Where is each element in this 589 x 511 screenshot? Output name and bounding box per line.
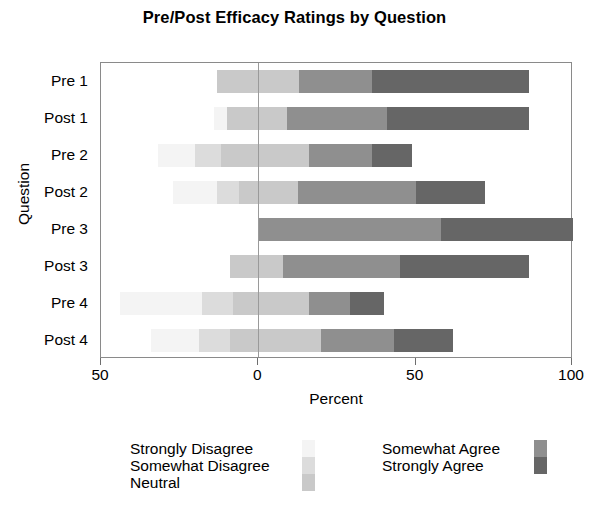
bar-segment-strongly-disagree[interactable] bbox=[120, 292, 202, 315]
legend-swatch-neutral bbox=[302, 474, 315, 491]
bar-segment-somewhat-agree[interactable] bbox=[287, 107, 388, 130]
x-tick-label: 0 bbox=[253, 366, 262, 384]
y-tick-label: Post 4 bbox=[44, 321, 88, 358]
bar-row bbox=[101, 285, 571, 322]
bar-row bbox=[101, 211, 571, 248]
bar-segment-somewhat-agree[interactable] bbox=[309, 144, 372, 167]
legend-swatch-strongly-agree bbox=[534, 457, 547, 474]
bar-segment-somewhat-agree[interactable] bbox=[283, 255, 399, 278]
legend-swatch-somewhat-agree bbox=[534, 440, 547, 457]
legend-column-left: Strongly DisagreeSomewhat DisagreeNeutra… bbox=[130, 440, 315, 491]
bar-row bbox=[101, 100, 571, 137]
likert-chart: Pre/Post Efficacy Ratings by Question Qu… bbox=[0, 0, 589, 511]
legend-column-right: Somewhat AgreeStrongly Agree bbox=[382, 440, 547, 474]
bar-segment-strongly-disagree[interactable] bbox=[151, 329, 198, 352]
bar-segment-neutral[interactable] bbox=[221, 144, 309, 167]
stacked-bar[interactable] bbox=[173, 181, 485, 204]
x-tick bbox=[257, 358, 258, 365]
bar-segment-strongly-disagree[interactable] bbox=[214, 107, 227, 130]
bar-segment-neutral[interactable] bbox=[233, 292, 309, 315]
bar-segment-strongly-agree[interactable] bbox=[400, 255, 529, 278]
zero-reference-line bbox=[258, 63, 259, 357]
bar-segment-strongly-disagree[interactable] bbox=[158, 144, 196, 167]
stacked-bar[interactable] bbox=[230, 255, 529, 278]
legend-item[interactable]: Strongly Agree bbox=[382, 457, 547, 474]
bar-rows bbox=[101, 63, 571, 357]
legend: Strongly DisagreeSomewhat DisagreeNeutra… bbox=[130, 440, 570, 502]
stacked-bar[interactable] bbox=[158, 144, 425, 167]
bar-segment-neutral[interactable] bbox=[230, 255, 283, 278]
bar-row bbox=[101, 322, 571, 359]
bar-row bbox=[101, 248, 571, 285]
bar-segment-strongly-agree[interactable] bbox=[350, 292, 385, 315]
y-tick-label: Pre 4 bbox=[51, 284, 88, 321]
bar-segment-strongly-agree[interactable] bbox=[441, 218, 573, 241]
legend-item[interactable]: Somewhat Disagree bbox=[130, 457, 315, 474]
chart-title: Pre/Post Efficacy Ratings by Question bbox=[0, 8, 589, 27]
bar-segment-somewhat-agree[interactable] bbox=[299, 70, 371, 93]
bar-segment-somewhat-disagree[interactable] bbox=[199, 329, 230, 352]
stacked-bar[interactable] bbox=[214, 107, 529, 130]
x-tick bbox=[100, 358, 101, 365]
legend-item[interactable]: Neutral bbox=[130, 474, 315, 491]
plot-panel bbox=[100, 62, 572, 358]
bar-segment-somewhat-disagree[interactable] bbox=[195, 144, 220, 167]
stacked-bar[interactable] bbox=[258, 218, 573, 241]
bar-segment-neutral[interactable] bbox=[239, 181, 298, 204]
x-tick-label: 50 bbox=[406, 366, 423, 384]
y-tick-label: Pre 3 bbox=[51, 210, 88, 247]
bar-segment-neutral[interactable] bbox=[227, 107, 287, 130]
bar-segment-somewhat-disagree[interactable] bbox=[202, 292, 233, 315]
bar-segment-strongly-agree[interactable] bbox=[372, 70, 529, 93]
legend-label: Somewhat Agree bbox=[382, 440, 534, 458]
y-tick-label: Post 1 bbox=[44, 99, 88, 136]
legend-swatch-strongly-disagree bbox=[302, 440, 315, 457]
legend-label: Somewhat Disagree bbox=[130, 457, 302, 475]
legend-item[interactable]: Strongly Disagree bbox=[130, 440, 315, 457]
bar-segment-strongly-disagree[interactable] bbox=[173, 181, 217, 204]
bar-segment-strongly-agree[interactable] bbox=[394, 329, 454, 352]
bar-segment-somewhat-disagree[interactable] bbox=[217, 181, 239, 204]
y-tick-label: Pre 2 bbox=[51, 136, 88, 173]
bar-segment-neutral[interactable] bbox=[230, 329, 321, 352]
y-tick-label: Pre 1 bbox=[51, 62, 88, 99]
bar-segment-strongly-agree[interactable] bbox=[416, 181, 485, 204]
bar-segment-somewhat-agree[interactable] bbox=[309, 292, 350, 315]
legend-item[interactable]: Somewhat Agree bbox=[382, 440, 547, 457]
legend-swatch-somewhat-disagree bbox=[302, 457, 315, 474]
stacked-bar[interactable] bbox=[151, 329, 453, 352]
x-tick bbox=[571, 358, 572, 365]
bar-row bbox=[101, 174, 571, 211]
y-axis-tick-labels: Pre 1Post 1Pre 2Post 2Pre 3Post 3Pre 4Po… bbox=[0, 62, 95, 358]
x-axis-title: Percent bbox=[100, 390, 572, 408]
bar-segment-somewhat-agree[interactable] bbox=[258, 218, 441, 241]
y-tick-label: Post 3 bbox=[44, 247, 88, 284]
bar-segment-somewhat-agree[interactable] bbox=[321, 329, 393, 352]
y-tick-label: Post 2 bbox=[44, 173, 88, 210]
bar-segment-strongly-agree[interactable] bbox=[372, 144, 413, 167]
x-tick-label: 100 bbox=[558, 366, 584, 384]
bar-row bbox=[101, 63, 571, 100]
stacked-bar[interactable] bbox=[120, 292, 391, 315]
stacked-bar[interactable] bbox=[217, 70, 529, 93]
x-tick bbox=[415, 358, 416, 365]
legend-label: Neutral bbox=[130, 474, 302, 492]
bar-row bbox=[101, 137, 571, 174]
bar-segment-strongly-agree[interactable] bbox=[387, 107, 529, 130]
legend-label: Strongly Disagree bbox=[130, 440, 302, 458]
bar-segment-somewhat-agree[interactable] bbox=[298, 181, 416, 204]
legend-label: Strongly Agree bbox=[382, 457, 534, 475]
x-tick-label: 50 bbox=[91, 366, 108, 384]
